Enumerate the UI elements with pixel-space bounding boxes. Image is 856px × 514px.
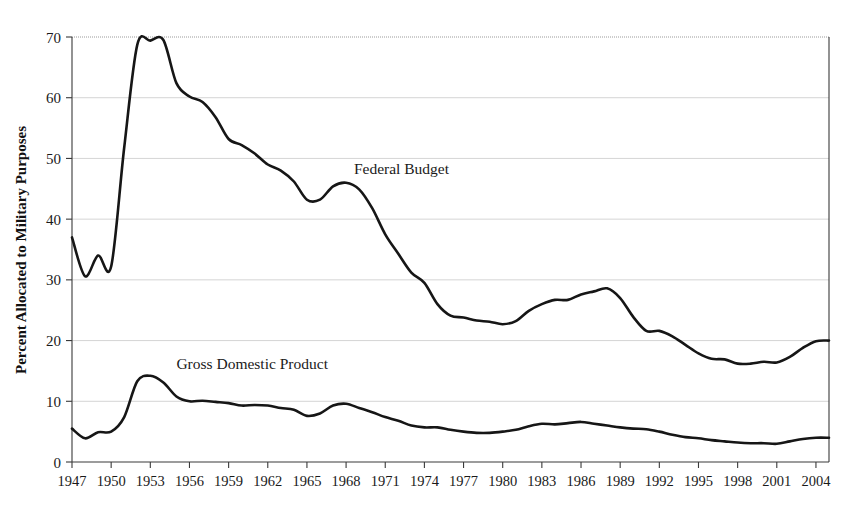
y-tick-label-20: 20 — [46, 333, 61, 349]
military-spending-line-chart: 010203040506070 194719501953195619591962… — [0, 0, 856, 514]
x-tick-label-1986: 1986 — [567, 473, 596, 489]
y-tick-label-0: 0 — [54, 455, 62, 471]
x-tick-label-1950: 1950 — [97, 473, 126, 489]
chart-container: 010203040506070 194719501953195619591962… — [0, 0, 856, 514]
y-axis-ticks: 010203040506070 — [46, 30, 72, 471]
y-axis-title: Percent Allocated to Military Purposes — [13, 126, 29, 374]
y-tick-label-60: 60 — [46, 90, 61, 106]
grid-lines — [72, 37, 829, 401]
x-tick-label-2001: 2001 — [762, 473, 791, 489]
x-tick-label-1965: 1965 — [292, 473, 321, 489]
x-tick-label-1980: 1980 — [488, 473, 517, 489]
x-tick-label-1968: 1968 — [332, 473, 361, 489]
y-tick-label-40: 40 — [46, 212, 61, 228]
x-tick-label-2004: 2004 — [801, 473, 831, 489]
x-tick-label-1974: 1974 — [410, 473, 440, 489]
y-tick-label-70: 70 — [46, 30, 61, 46]
x-tick-label-1956: 1956 — [175, 473, 204, 489]
x-tick-label-1995: 1995 — [684, 473, 713, 489]
x-tick-label-1992: 1992 — [645, 473, 674, 489]
series-label-gross-domestic-product: Gross Domestic Product — [176, 355, 328, 372]
y-tick-label-30: 30 — [46, 272, 61, 288]
x-tick-label-1947: 1947 — [58, 473, 87, 489]
series-line-gross-domestic-product — [72, 376, 829, 444]
y-tick-label-50: 50 — [46, 151, 61, 167]
series-label-federal-budget: Federal Budget — [354, 160, 450, 177]
x-tick-label-1989: 1989 — [606, 473, 635, 489]
x-axis-ticks: 1947195019531956195919621965196819711974… — [58, 462, 832, 489]
y-tick-label-10: 10 — [46, 394, 61, 410]
x-tick-label-1971: 1971 — [371, 473, 400, 489]
series-line-federal-budget — [72, 36, 829, 364]
x-tick-label-1953: 1953 — [136, 473, 165, 489]
x-tick-label-1983: 1983 — [527, 473, 556, 489]
x-tick-label-1977: 1977 — [449, 473, 478, 489]
x-tick-label-1998: 1998 — [723, 473, 752, 489]
x-tick-label-1962: 1962 — [253, 473, 282, 489]
x-tick-label-1959: 1959 — [214, 473, 243, 489]
plot-frame — [72, 37, 829, 462]
